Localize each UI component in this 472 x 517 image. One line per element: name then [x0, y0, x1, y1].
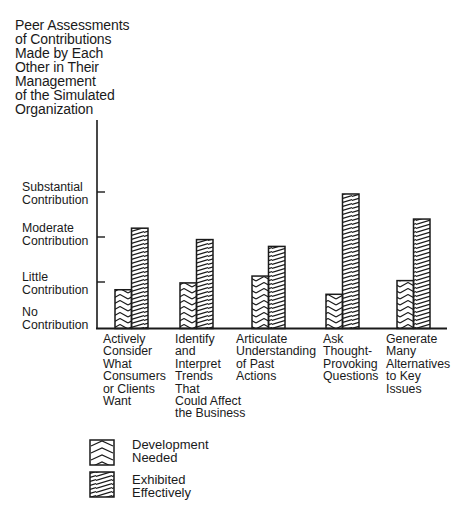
y-axis: [97, 120, 105, 329]
bar-development-needed-2: [180, 283, 197, 329]
bar-development-needed-4: [326, 294, 343, 328]
bar-development-needed-5: [397, 281, 414, 329]
category-label-3: Articulate Understanding of Past Actions: [236, 333, 316, 383]
bar-exhibited-effectively-5: [414, 219, 431, 328]
bar-exhibited-effectively-4: [343, 194, 360, 329]
bar-exhibited-effectively-3: [269, 246, 286, 328]
bar-development-needed-3: [252, 276, 269, 328]
bar-exhibited-effectively-2: [197, 240, 214, 329]
legend-swatch-exhibited: [90, 472, 114, 497]
legend-swatch-development: [90, 440, 114, 465]
bar-development-needed-1: [115, 290, 132, 329]
bar-exhibited-effectively-1: [132, 228, 149, 328]
category-label-1: Actively Consider What Consumers or Clie…: [103, 333, 166, 407]
legend-label-exhibited: Exhibited Effectively: [132, 474, 191, 499]
category-label-4: Ask Thought- Provoking Questions: [323, 333, 378, 383]
legend-label-development: Development Needed: [132, 439, 209, 464]
bar-chart-canvas: [0, 0, 472, 517]
legend-swatches: [90, 440, 114, 497]
category-label-5: Generate Many Alternatives to Key Issues: [386, 333, 450, 395]
bars-group: [115, 194, 430, 329]
category-label-2: Identify and Interpret Trends That Could…: [175, 333, 245, 420]
